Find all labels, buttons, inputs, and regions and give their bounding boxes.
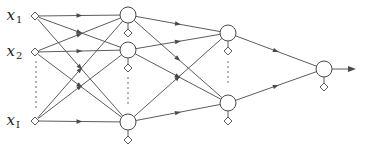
bias-node xyxy=(224,117,232,125)
hidden-1-neuron xyxy=(120,7,136,23)
ellipsis-dot xyxy=(35,66,37,68)
ellipsis-dot xyxy=(35,96,37,98)
connection-edges xyxy=(38,13,317,123)
input-label-subscript: 1 xyxy=(16,14,22,25)
ellipsis-dot xyxy=(127,102,129,104)
input-node xyxy=(31,12,39,20)
ellipsis-dot xyxy=(35,61,37,63)
ellipsis-dot xyxy=(127,77,129,79)
bias-node xyxy=(124,29,132,37)
arrowhead-icon xyxy=(272,48,278,52)
hidden-2-neuron xyxy=(220,95,236,111)
input-node xyxy=(31,48,39,56)
bias-node xyxy=(124,64,132,72)
output-neuron xyxy=(316,61,332,77)
ellipsis-dot xyxy=(127,82,129,84)
input-labels: x1x2xI xyxy=(7,6,23,130)
arrowhead-icon xyxy=(175,40,181,44)
neural-network-diagram: x1x2xI xyxy=(0,0,374,151)
bias-node xyxy=(124,136,132,144)
input-label-subscript: 2 xyxy=(16,50,22,61)
output-arrow-icon xyxy=(348,66,356,72)
hidden-1-neuron xyxy=(120,114,136,130)
arrowhead-icon xyxy=(76,49,82,53)
ellipsis-dot xyxy=(227,71,229,73)
ellipsis-dot xyxy=(35,106,37,108)
ellipsis-dot xyxy=(227,81,229,83)
ellipsis-dot xyxy=(227,66,229,68)
input-node xyxy=(31,117,39,125)
ellipsis-dot xyxy=(35,76,37,78)
ellipsis-dot xyxy=(35,81,37,83)
arrowhead-icon xyxy=(175,111,181,115)
hidden-2-neuron xyxy=(220,25,236,41)
ellipsis-dot xyxy=(227,76,229,78)
arrowhead-icon xyxy=(175,21,181,25)
arrowhead-icon xyxy=(76,119,82,123)
ellipsis-dot xyxy=(35,86,37,88)
ellipsis-dot xyxy=(227,61,229,63)
arrowhead-icon xyxy=(272,85,278,89)
ellipsis-dot xyxy=(35,91,37,93)
ellipsis-dot xyxy=(35,101,37,103)
input-label: x xyxy=(7,111,16,129)
bias-node xyxy=(224,47,232,55)
ellipsis-dot xyxy=(127,97,129,99)
output-arrow xyxy=(332,66,356,72)
arrowhead-icon xyxy=(76,13,82,17)
ellipsis-dot xyxy=(127,92,129,94)
hidden-1-neuron xyxy=(120,42,136,58)
ellipsis-dot xyxy=(127,87,129,89)
arrowhead-icon xyxy=(76,29,82,33)
bias-node xyxy=(320,83,328,91)
input-label-subscript: I xyxy=(16,119,20,130)
arrowhead-icon xyxy=(76,33,82,37)
input-label: x xyxy=(7,42,16,60)
input-label: x xyxy=(7,6,16,24)
ellipsis-dot xyxy=(35,71,37,73)
